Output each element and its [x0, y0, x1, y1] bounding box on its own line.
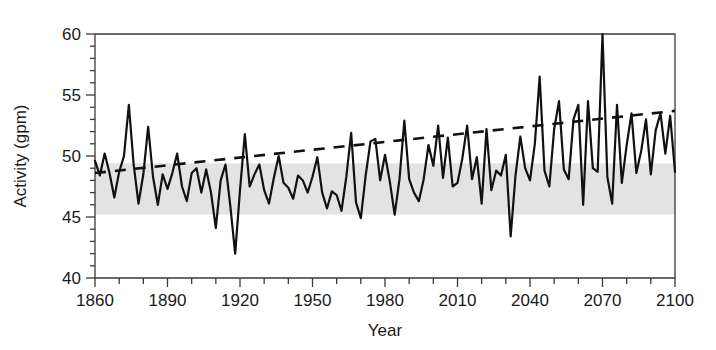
x-tick-label: 2100: [656, 291, 694, 310]
y-tick-label: 45: [62, 208, 81, 227]
y-tick-label: 60: [62, 25, 81, 44]
chart-root: 186018901920195019802010204020702100 404…: [0, 0, 716, 350]
x-tick-label: 1920: [221, 291, 259, 310]
x-tick-labels: 186018901920195019802010204020702100: [76, 291, 694, 310]
y-tick-labels: 4045505560: [62, 25, 81, 288]
y-tick-label: 55: [62, 86, 81, 105]
y-tick-label: 50: [62, 147, 81, 166]
x-tick-label: 1860: [76, 291, 114, 310]
y-axis-title: Activity (gpm): [11, 105, 30, 208]
x-tick-label: 1950: [294, 291, 332, 310]
x-tick-label: 2070: [584, 291, 622, 310]
x-axis-title: Year: [368, 321, 403, 340]
data-series-line: [95, 34, 675, 254]
x-tick-label: 2040: [511, 291, 549, 310]
y-tick-label: 40: [62, 269, 81, 288]
series-path: [95, 34, 675, 254]
x-tick-label: 1980: [366, 291, 404, 310]
x-tick-label: 1890: [149, 291, 187, 310]
activity-line-chart: 186018901920195019802010204020702100 404…: [0, 0, 716, 350]
x-tick-label: 2010: [439, 291, 477, 310]
